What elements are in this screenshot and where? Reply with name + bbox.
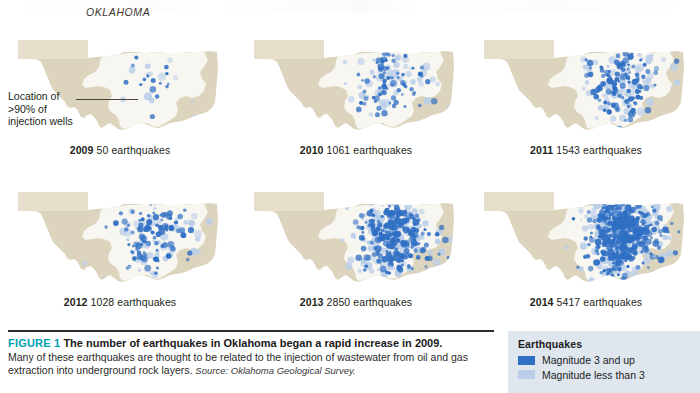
map-panel-2011[interactable]: 2011 1543 earthquakes [470, 22, 700, 172]
figure-headline: FIGURE 1 The number of earthquakes in Ok… [8, 336, 494, 350]
map-year-2010: 2010 [300, 144, 324, 156]
figure-page: OKLAHOMA 2009 50 earthquakes 2010 1061 e… [0, 0, 700, 393]
map-year-2011: 2011 [530, 144, 553, 156]
map-caption-2013: 2013 2850 earthquakes [240, 296, 472, 308]
map-count-2014: 5417 earthquakes [554, 296, 643, 308]
map-caption-2011: 2011 1543 earthquakes [470, 144, 700, 156]
oklahoma-map-2012 [4, 174, 236, 294]
figure-source: Source: Oklahoma Geological Survey. [195, 365, 355, 376]
oklahoma-map-2010 [240, 22, 472, 142]
map-grid: 2009 50 earthquakes 2010 1061 earthquake… [0, 0, 700, 320]
map-year-2009: 2009 [70, 144, 94, 156]
map-caption-2010: 2010 1061 earthquakes [240, 144, 472, 156]
oklahoma-map-2011 [470, 22, 700, 142]
map-count-2012: 1028 earthquakes [88, 296, 177, 308]
legend-swatch-dark-icon [518, 356, 535, 365]
legend-item-magnitude-less-than-3: Magnitude less than 3 [518, 369, 700, 381]
map-count-2009: 50 earthquakes [93, 144, 170, 156]
map-count-2010: 1061 earthquakes [324, 144, 413, 156]
map-panel-2012[interactable]: 2012 1028 earthquakes [4, 174, 236, 324]
oklahoma-map-2014 [470, 174, 700, 294]
legend-box: Earthquakes Magnitude 3 and up Magnitude… [508, 331, 700, 393]
legend-label-0: Magnitude 3 and up [542, 354, 635, 366]
oklahoma-map-2013 [240, 174, 472, 294]
figure-body: Many of these earthquakes are thought to… [8, 351, 494, 378]
map-caption-2012: 2012 1028 earthquakes [4, 296, 236, 308]
legend-title: Earthquakes [518, 338, 700, 350]
map-caption-2014: 2014 5417 earthquakes [470, 296, 700, 308]
map-panel-2014[interactable]: 2014 5417 earthquakes [470, 174, 700, 324]
map-count-2013: 2850 earthquakes [324, 296, 413, 308]
legend-label-1: Magnitude less than 3 [542, 369, 645, 381]
map-panel-2010[interactable]: 2010 1061 earthquakes [240, 22, 472, 172]
annotation-leader-line [76, 99, 138, 100]
figure-label: FIGURE 1 [8, 337, 60, 349]
map-year-2013: 2013 [300, 296, 324, 308]
map-year-2012: 2012 [64, 296, 88, 308]
legend-swatch-light-icon [518, 370, 535, 379]
figure-caption-block: FIGURE 1 The number of earthquakes in Ok… [8, 336, 494, 378]
injection-wells-annotation: Location of >90% of injection wells [8, 90, 82, 128]
legend-item-magnitude-3-and-up: Magnitude 3 and up [518, 354, 700, 366]
map-count-2011: 1543 earthquakes [553, 144, 642, 156]
caption-divider [8, 330, 494, 332]
figure-headline-text: The number of earthquakes in Oklahoma be… [60, 337, 442, 349]
map-panel-2013[interactable]: 2013 2850 earthquakes [240, 174, 472, 324]
map-caption-2009: 2009 50 earthquakes [4, 144, 236, 156]
map-year-2014: 2014 [530, 296, 554, 308]
